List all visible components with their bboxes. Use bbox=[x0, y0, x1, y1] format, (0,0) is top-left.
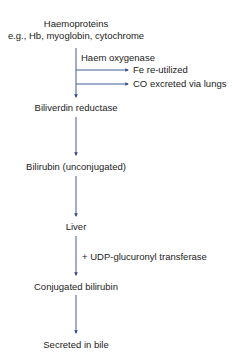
edge-label-udp-transferase: + UDP-glucuronyl transferase bbox=[82, 251, 207, 263]
edge-label-haem-oxygenase: Haem oxygenase bbox=[81, 52, 155, 64]
node-bilirubin-unconjugated: Bilirubin (unconjugated) bbox=[26, 161, 126, 173]
node-haemoproteins: Haemoproteins bbox=[44, 18, 108, 30]
node-conjugated-bilirubin: Conjugated bilirubin bbox=[34, 281, 118, 293]
node-biliverdin-reductase: Biliverdin reductase bbox=[35, 102, 118, 114]
side-output-fe: Fe re-utilized bbox=[133, 64, 188, 76]
node-haemoproteins-examples: e.g., Hb, myoglobin, cytochrome bbox=[8, 30, 144, 42]
side-output-co: CO excreted via lungs bbox=[133, 78, 226, 90]
node-liver: Liver bbox=[66, 221, 87, 233]
node-secreted-in-bile: Secreted in bile bbox=[43, 339, 108, 351]
